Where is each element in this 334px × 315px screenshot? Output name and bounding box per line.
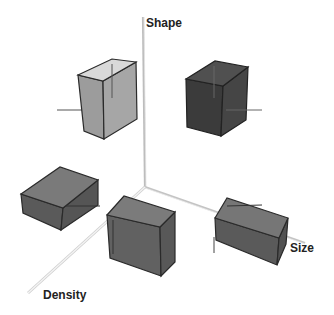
diagram-canvas [0,0,334,315]
axis-shape-line [143,17,146,187]
axis-label-density: Density [43,288,86,302]
box-top-left [57,59,137,139]
box-right [214,198,288,265]
axis-label-size: Size [290,241,314,255]
box-mid-left [21,167,100,230]
box-top-right [186,61,262,136]
box-center [107,196,175,276]
axis-label-shape: Shape [146,16,182,30]
feature-space-diagram: Shape Size Density [0,0,334,315]
